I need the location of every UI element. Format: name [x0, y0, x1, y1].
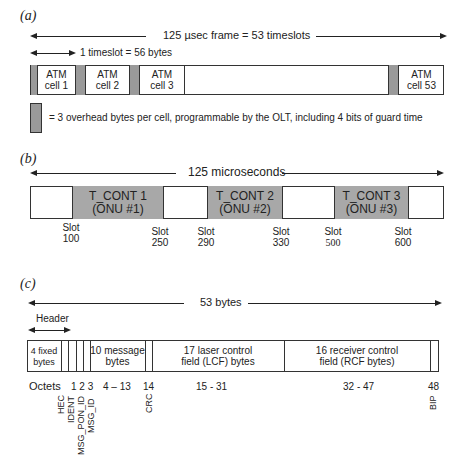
octets-15-31: 15 - 31 — [196, 381, 227, 392]
octets-4-13: 4 – 13 — [103, 381, 131, 392]
octet-48: 48 — [428, 381, 439, 392]
total-bytes-text: 53 bytes — [200, 297, 242, 308]
field-rcf-bytes: 16 receiver controlfield (RCF bytes) — [284, 345, 430, 367]
panel-b-label: (b) — [20, 151, 36, 167]
msg-id-label: MSG_ID — [86, 398, 96, 433]
atm-cell-2: ATMcell 2 — [86, 69, 129, 91]
duration-text: 125 microseconds — [188, 166, 285, 179]
header-text: Header — [36, 313, 69, 324]
field-message-bytes: 10 messagebytes — [90, 345, 145, 367]
octets-1-2-3: 1 2 3 — [71, 381, 93, 392]
tcont-3-label: T_CONT 3(ONU #3) — [334, 190, 409, 216]
atm-cell-3: ATMcell 3 — [140, 69, 184, 91]
overhead-block — [30, 65, 38, 95]
bip-label: BIP — [428, 395, 438, 410]
atm-cell-53: ATMcell 53 — [399, 69, 444, 91]
overhead-block — [75, 65, 86, 95]
overhead-block — [129, 65, 140, 95]
octets-32-47: 32 - 47 — [343, 381, 374, 392]
field-lcf-bytes: 17 laser controlfield (LCF) bytes — [152, 345, 284, 367]
divider — [145, 340, 146, 372]
octets-label: Octets — [29, 381, 61, 392]
divider — [83, 340, 84, 372]
slot-290: Slot290 — [193, 226, 219, 248]
divider — [430, 340, 431, 372]
timeslot-text: 1 timeslot = 56 bytes — [80, 47, 172, 58]
divider — [184, 65, 185, 95]
field-fixed-bytes: 4 fixedbytes — [27, 346, 61, 368]
octet-14: 14 — [143, 381, 154, 392]
divider — [68, 340, 69, 372]
slot-250: Slot250 — [147, 226, 173, 248]
slot-500: Slot500 — [320, 226, 346, 248]
legend-overhead-swatch — [30, 103, 42, 133]
crc-label: CRC — [144, 394, 154, 414]
atm-cell-1: ATMcell 1 — [38, 69, 75, 91]
ident-label: IDENT — [66, 396, 76, 423]
panel-a-label: (a) — [20, 8, 36, 24]
tcont-1-label: T_CONT 1(ONU #1) — [72, 190, 164, 216]
legend-text: = 3 overhead bytes per cell, programmabl… — [49, 112, 423, 123]
panel-c-label: (c) — [20, 276, 36, 292]
divider — [61, 340, 62, 372]
slot-100: Slot100 — [58, 222, 84, 244]
hec-label: HEC — [56, 395, 66, 414]
overhead-block — [388, 65, 399, 95]
msg-pon-id-label: MSG_PON_ID — [76, 396, 86, 455]
slot-600: Slot600 — [390, 226, 416, 248]
divider — [76, 340, 77, 372]
frame-text: 125 µsec frame = 53 timeslots — [163, 30, 310, 41]
slot-330: Slot330 — [268, 226, 294, 248]
tcont-2-label: T_CONT 2(ONU #2) — [207, 190, 283, 216]
